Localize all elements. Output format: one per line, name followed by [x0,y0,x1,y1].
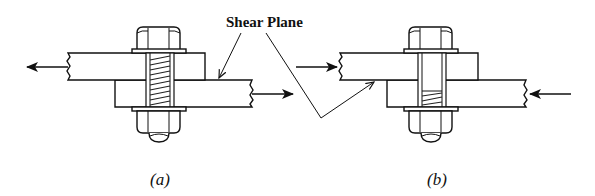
top-plate [67,53,205,80]
bolt-shank-threaded [146,53,174,107]
leader-line-b [266,33,321,118]
shear-plane-diagram: Shear Plane (a) (b) [0,0,595,196]
shear-plane-label: Shear Plane [226,14,303,30]
caption-a: (a) [150,170,170,189]
bottom-plate [115,80,253,107]
top-plate [339,53,478,80]
caption-b: (b) [427,170,447,189]
nut-icon [404,107,458,142]
panel-a [27,27,293,142]
panel-b [296,27,571,142]
leader-arrow-a-icon [219,33,241,78]
bottom-plate [387,80,527,107]
bolt-head-icon [132,27,186,53]
bolt-head-icon [404,27,458,53]
bolt-shank-partial-thread [418,53,446,107]
leader-arrow-b-icon [321,82,374,118]
nut-icon [132,107,186,142]
